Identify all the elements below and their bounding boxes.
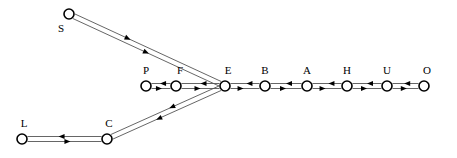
arrowhead-forward-icon (320, 86, 326, 91)
edge-C-E (111, 86, 221, 139)
node-l[interactable] (17, 134, 27, 144)
edge-E-B (231, 81, 260, 91)
node-label-c: C (105, 117, 112, 129)
arrowhead-backward-icon (328, 81, 334, 86)
node-label-p: P (143, 64, 149, 76)
arrowhead-backward-icon (286, 81, 292, 86)
arrowhead-backward-icon (160, 81, 166, 86)
edge-B-A (271, 81, 302, 91)
node-s[interactable] (64, 9, 74, 19)
edge-lane-backward (111, 86, 219, 134)
label-layer: SPFEBAHUOLC (21, 22, 431, 129)
edge-A-H (313, 81, 342, 91)
arrowhead-backward-icon (404, 81, 410, 86)
node-o[interactable] (419, 81, 429, 91)
edge-H-U (353, 81, 382, 91)
edge-U-O (393, 81, 419, 91)
node-b[interactable] (260, 81, 270, 91)
node-label-u: U (383, 64, 391, 76)
node-p[interactable] (141, 81, 151, 91)
arrowhead-backward-icon (246, 81, 252, 86)
node-label-b: B (261, 64, 268, 76)
diagram-canvas: SPFEBAHUOLC (0, 0, 457, 158)
arrowhead-backward-icon (59, 134, 65, 139)
node-label-h: H (343, 64, 351, 76)
node-label-a: A (303, 64, 311, 76)
edge-layer (28, 14, 419, 144)
node-label-l: L (21, 117, 28, 129)
node-layer (17, 9, 429, 144)
node-label-e: E (225, 64, 232, 76)
arrowhead-forward-icon (238, 86, 244, 91)
network-graph: SPFEBAHUOLC (0, 0, 457, 158)
node-label-s: S (58, 22, 64, 34)
edge-P-F (152, 81, 171, 91)
arrowhead-forward-icon (280, 86, 286, 91)
edge-L-C (28, 134, 102, 144)
node-c[interactable] (102, 134, 112, 144)
edge-F-E (182, 81, 220, 91)
edge-lane-forward (113, 91, 221, 139)
arrowhead-forward-icon (361, 86, 367, 91)
node-e[interactable] (220, 81, 230, 91)
arrowhead-backward-icon (367, 81, 373, 86)
node-f[interactable] (171, 81, 181, 91)
arrowhead-backward-icon (201, 81, 207, 86)
node-u[interactable] (382, 81, 392, 91)
node-h[interactable] (342, 81, 352, 91)
arrowhead-forward-icon (195, 86, 201, 91)
node-a[interactable] (302, 81, 312, 91)
node-label-o: O (423, 64, 431, 76)
arrowhead-forward-icon (156, 86, 162, 91)
arrowhead-forward-icon (64, 139, 70, 144)
arrowhead-forward-icon (401, 86, 407, 91)
node-label-f: F (177, 64, 183, 76)
